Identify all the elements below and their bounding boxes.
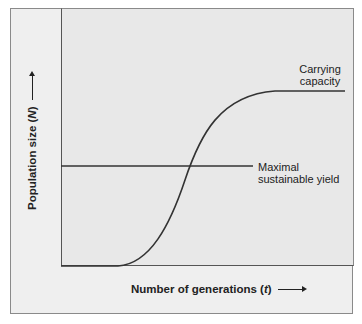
y-axis-label: Population size (N) xyxy=(26,74,38,210)
x-axis-label: Number of generations (t) xyxy=(131,283,304,295)
msy-label: Maximal sustainable yield xyxy=(258,161,339,185)
x-arrow-icon xyxy=(278,289,304,290)
carrying-capacity-label: Carrying capacity xyxy=(290,63,350,87)
y-arrow-icon xyxy=(32,74,33,100)
